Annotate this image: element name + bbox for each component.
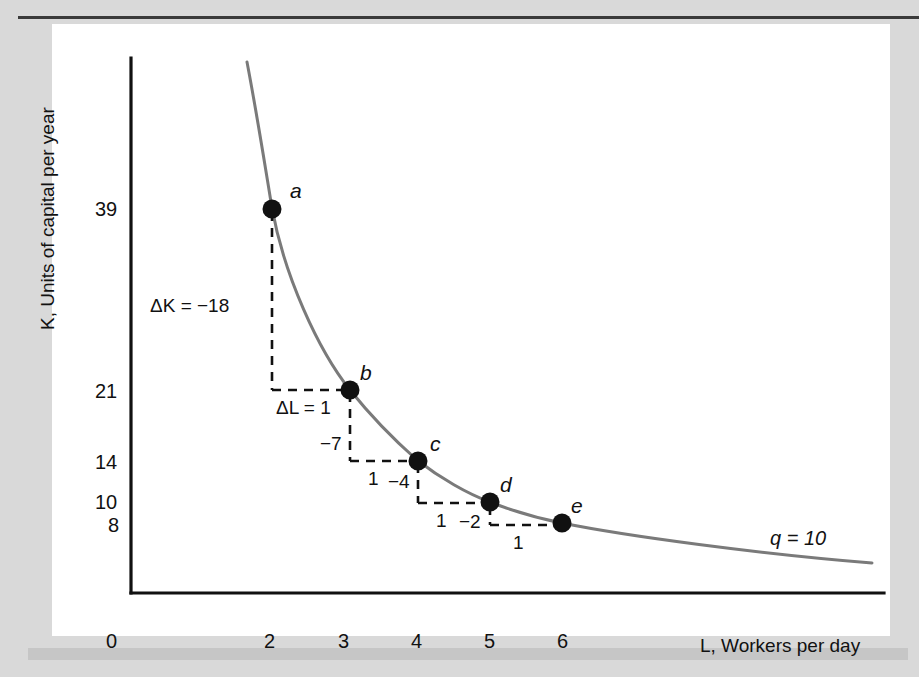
annotation-delta-l-ab: ΔL = 1 — [276, 398, 331, 417]
y-tick-label-8: 8 — [108, 515, 119, 535]
annotation-delta-l-cd: 1 — [436, 511, 447, 530]
origin-tick-label: 0 — [106, 631, 117, 651]
data-point-b[interactable] — [341, 381, 360, 400]
data-point-a[interactable] — [263, 200, 282, 219]
y-tick-label-39: 39 — [95, 199, 117, 219]
y-tick-label-14: 14 — [95, 452, 117, 472]
y-axis-title: K, Units of capital per year — [38, 107, 57, 330]
isoquant-chart — [0, 0, 919, 677]
data-point-c[interactable] — [409, 452, 428, 471]
annotation-delta-l-de: 1 — [513, 533, 524, 552]
x-tick-label-4: 4 — [411, 631, 422, 651]
point-label-e: e — [571, 495, 583, 516]
x-tick-label-2: 2 — [264, 631, 275, 651]
y-tick-label-21: 21 — [95, 381, 117, 401]
axis-lines — [131, 58, 884, 593]
annotation-delta-l-bc: 1 — [368, 469, 379, 488]
annotation-delta-k-cd: −4 — [388, 472, 410, 491]
data-point-d[interactable] — [481, 493, 500, 512]
point-label-d: d — [500, 474, 512, 495]
y-tick-label-10: 10 — [95, 492, 117, 512]
annotation-delta-k-ab: ΔK = −18 — [150, 296, 229, 315]
step-a-to-b — [272, 212, 348, 390]
point-label-a: a — [290, 180, 302, 201]
annotation-delta-k-bc: −7 — [320, 434, 342, 453]
point-label-b: b — [360, 362, 372, 383]
x-tick-label-3: 3 — [338, 631, 349, 651]
annotation-delta-k-de: −2 — [459, 512, 481, 531]
curve-label-q10: q = 10 — [770, 528, 826, 548]
x-tick-label-5: 5 — [484, 631, 495, 651]
step-d-to-e — [490, 506, 560, 525]
x-tick-label-6: 6 — [557, 631, 568, 651]
isoquant-curve — [247, 62, 872, 563]
data-point-e[interactable] — [553, 514, 572, 533]
point-label-c: c — [430, 433, 441, 454]
x-axis-title: L, Workers per day — [700, 636, 860, 655]
